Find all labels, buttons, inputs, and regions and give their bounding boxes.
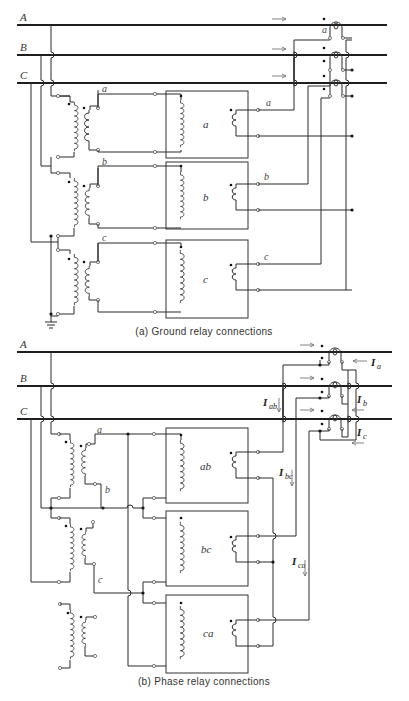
relay-box-c: c bbox=[166, 240, 258, 318]
arrow-right-icon bbox=[272, 17, 286, 21]
arrow-right-icon bbox=[300, 408, 314, 412]
svg-text:I: I bbox=[262, 396, 268, 408]
current-transformer-b bbox=[323, 47, 352, 72]
bus-label-c: C bbox=[20, 69, 28, 81]
voltage-transformer-a bbox=[56, 90, 99, 159]
arrow-left-icon bbox=[352, 441, 364, 445]
svg-text:I: I bbox=[356, 393, 362, 405]
arrow-right-icon bbox=[272, 47, 286, 51]
figure-a-ground-relay: A B C a bbox=[17, 11, 387, 337]
relay-label-a: a bbox=[203, 118, 209, 130]
svg-text:ab: ab bbox=[269, 402, 277, 411]
bus-label-a: A bbox=[19, 11, 27, 23]
voltage-transformer-a bbox=[51, 432, 101, 518]
arrow-left-icon bbox=[353, 359, 367, 363]
line-label-b: b bbox=[102, 156, 107, 167]
svg-text:I: I bbox=[370, 356, 376, 368]
relay-box-b: b bbox=[166, 162, 258, 229]
arrow-right-icon bbox=[300, 376, 314, 380]
current-label-iab: I ab bbox=[262, 396, 281, 412]
relay-box-bc: bc bbox=[166, 511, 258, 586]
tap-b bbox=[41, 55, 58, 173]
svg-text:a: a bbox=[266, 97, 271, 108]
svg-text:I: I bbox=[356, 426, 362, 438]
wire-a-to-relay bbox=[98, 94, 181, 108]
relay-label-b: b bbox=[203, 191, 209, 203]
svg-text:b: b bbox=[363, 399, 367, 408]
voltage-transformer-b bbox=[56, 168, 99, 242]
line-label-a: a bbox=[102, 83, 107, 94]
svg-text:I: I bbox=[291, 555, 297, 567]
spare-transformer-icon bbox=[58, 602, 96, 669]
tap-a bbox=[51, 25, 70, 96]
svg-text:a: a bbox=[377, 362, 381, 371]
line-label-b: b bbox=[105, 484, 110, 495]
svg-text:c: c bbox=[363, 432, 367, 441]
current-transformer-a: a bbox=[322, 18, 352, 40]
relay-label-ab: ab bbox=[200, 460, 212, 472]
relay-label-bc: bc bbox=[201, 543, 212, 555]
relay-label-c: c bbox=[203, 273, 208, 285]
ct-label-a: a bbox=[322, 24, 327, 35]
line-label-a: a bbox=[97, 424, 102, 435]
figure-b-caption: (b) Phase relay connections bbox=[138, 676, 270, 687]
figure-b-phase-relay: A B C a b bbox=[17, 338, 392, 687]
voltage-transformer-c bbox=[51, 242, 100, 316]
current-label-ia: I a bbox=[353, 356, 381, 371]
current-transformer-a bbox=[318, 345, 359, 440]
line-label-c: c bbox=[98, 574, 103, 585]
current-label-ib: I b bbox=[352, 393, 367, 412]
current-label-ibc: I bc bbox=[278, 466, 294, 486]
arrow-down-icon bbox=[277, 398, 281, 412]
current-transformer-c bbox=[318, 404, 351, 437]
bus-label-b: B bbox=[20, 372, 27, 384]
relay-label-ca: ca bbox=[203, 627, 214, 639]
svg-text:I: I bbox=[278, 466, 284, 478]
arrow-right-icon bbox=[272, 74, 286, 78]
relay-box-ab: ab bbox=[166, 428, 258, 503]
relay-box-ca: ca bbox=[166, 595, 258, 673]
bus-label-c: C bbox=[20, 405, 28, 417]
current-label-ica: I ca bbox=[291, 555, 307, 576]
line-label-c: c bbox=[102, 232, 107, 243]
current-transformer-b bbox=[318, 370, 351, 404]
relay-box-a: a bbox=[166, 91, 258, 158]
svg-text:ca: ca bbox=[298, 561, 306, 570]
arrow-right-icon bbox=[300, 343, 314, 347]
bus-label-a: A bbox=[19, 338, 27, 350]
figure-a-caption: (a) Ground relay connections bbox=[135, 326, 272, 337]
svg-text:b: b bbox=[264, 171, 269, 182]
voltage-transformer-b bbox=[57, 516, 128, 593]
arrow-left-icon bbox=[352, 408, 364, 412]
bus-label-b: B bbox=[20, 41, 27, 53]
relay-connection-diagram: A B C a bbox=[0, 0, 409, 701]
current-label-ic: I c bbox=[352, 426, 367, 445]
svg-text:c: c bbox=[264, 251, 269, 262]
